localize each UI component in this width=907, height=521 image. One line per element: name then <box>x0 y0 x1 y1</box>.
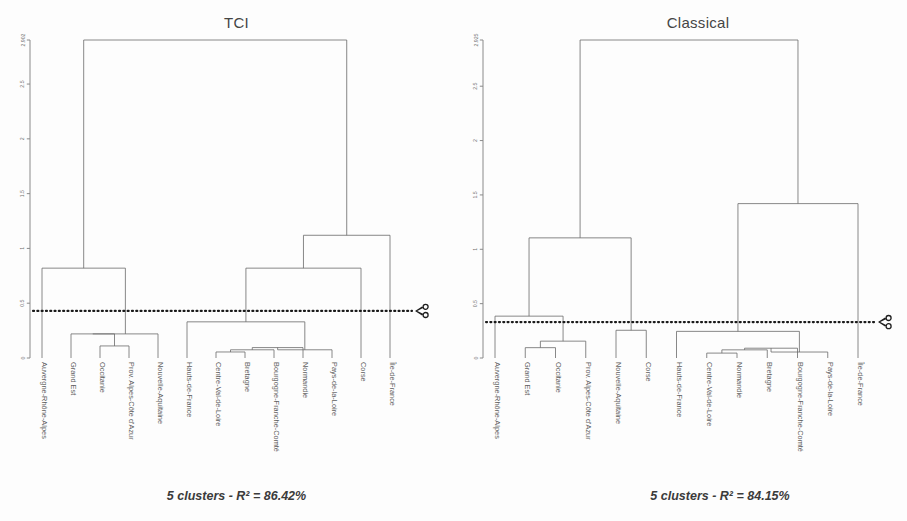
dendrogram-link <box>84 40 347 268</box>
dendrogram-link <box>303 235 390 358</box>
leaf-label: Bretagne <box>243 362 252 392</box>
y-tick-label: 1 <box>473 248 479 251</box>
leaf-label: Bretagne <box>765 362 774 392</box>
y-tick-label: 2.925 <box>473 33 479 46</box>
y-tick-label: 2 <box>473 139 479 142</box>
y-tick-label: 0 <box>20 356 26 359</box>
leaf-label: Centre-Val-de-Loire <box>214 362 223 426</box>
y-tick-label: 2.5 <box>473 82 479 89</box>
dendrogram-panel-classical: Classical 00.511.522.52.925Auvergne-Rhôn… <box>453 0 907 521</box>
y-tick-label: 1 <box>20 247 26 250</box>
chart-caption-tci: 5 clusters - R² = 86.42% <box>0 489 463 503</box>
dendrogram-panel-tci: TCI 00.511.522.52.902Auvergne-Rhône-Alpe… <box>0 0 453 521</box>
leaf-label: Nouvelle-Aquitaine <box>156 362 165 424</box>
leaf-label: Prov. Alpes-Côte d'Azur <box>584 362 593 440</box>
leaf-label: Occitanie <box>98 362 107 393</box>
dendrogram-link <box>187 322 305 358</box>
y-tick-label: 1.5 <box>20 190 26 197</box>
leaf-label: Corse <box>644 362 653 382</box>
leaf-label: Nouvelle-Aquitaine <box>614 362 623 424</box>
chart-caption-classical: 5 clusters - R² = 84.15% <box>453 489 907 503</box>
dendrogram-link <box>616 330 646 358</box>
dendrogram-link <box>231 350 275 358</box>
dendrogram-link <box>216 352 245 358</box>
y-axis: 00.511.522.52.902 <box>20 33 31 359</box>
dendrogram-plot-tci: 00.511.522.52.902Auvergne-Rhône-AlpesGra… <box>0 0 453 521</box>
dendrogram-links <box>495 40 858 358</box>
leaf-labels: Auvergne-Rhône-AlpesGrand EstOccitaniePr… <box>493 361 865 452</box>
leaf-label: Bourgogne-Franche-Comté <box>796 362 805 452</box>
leaf-label: Île-de-France <box>856 361 865 406</box>
dendrogram-link <box>42 268 125 358</box>
leaf-label: Bourgogne-Franche-Comté <box>272 362 281 452</box>
dendrogram-link <box>540 341 585 358</box>
scissors-icon <box>878 316 891 329</box>
dendrogram-link <box>580 40 798 238</box>
dendrogram-link <box>677 331 800 358</box>
leaf-label: Normandie <box>735 362 744 398</box>
leaf-label: Pays-de-la-Loire <box>826 362 835 416</box>
leaf-label: Auvergne-Rhône-Alpes <box>493 362 502 439</box>
y-tick-label: 2 <box>20 137 26 140</box>
leaf-label: Pays-de-la-Loire <box>330 362 339 416</box>
y-tick-label: 0.5 <box>473 300 479 307</box>
dendrogram-svg: 00.511.522.52.925Auvergne-Rhône-AlpesGra… <box>453 0 907 521</box>
y-axis: 00.511.522.52.925 <box>473 33 484 359</box>
leaf-label: Hauts-de-France <box>185 362 194 417</box>
dendrogram-svg: 00.511.522.52.902Auvergne-Rhône-AlpesGra… <box>0 0 453 521</box>
scissors-icon <box>415 304 428 317</box>
dendrogram-link <box>722 350 767 358</box>
y-tick-label: 1.5 <box>473 191 479 198</box>
dendrogram-link <box>738 204 858 358</box>
y-tick-label: 0 <box>473 356 479 359</box>
dendrogram-link <box>100 346 129 358</box>
leaf-label: Occitanie <box>554 362 563 393</box>
leaf-label: Corse <box>359 362 368 382</box>
leaf-label: Grand Est <box>69 362 78 395</box>
y-tick-label: 2.902 <box>20 33 26 46</box>
leaf-label: Hauts-de-France <box>675 362 684 417</box>
leaf-labels: Auvergne-Rhône-AlpesGrand EstOccitaniePr… <box>40 361 397 452</box>
leaf-label: Île-de-France <box>388 361 397 406</box>
dendrogram-plot-classical: 00.511.522.52.925Auvergne-Rhône-AlpesGra… <box>453 0 907 521</box>
y-tick-label: 2.5 <box>20 80 26 87</box>
leaf-label: Normandie <box>301 362 310 398</box>
y-tick-label: 0.5 <box>20 299 26 306</box>
figure-canvas: TCI 00.511.522.52.902Auvergne-Rhône-Alpe… <box>0 0 907 521</box>
dendrogram-link <box>707 353 737 358</box>
leaf-label: Grand Est <box>523 362 532 395</box>
leaf-label: Prov. Alpes-Côte d'Azur <box>127 362 136 440</box>
leaf-label: Centre-Val-de-Loire <box>705 362 714 426</box>
dendrogram-link <box>246 268 361 358</box>
leaf-label: Auvergne-Rhône-Alpes <box>40 362 49 439</box>
dendrogram-link <box>525 348 555 358</box>
